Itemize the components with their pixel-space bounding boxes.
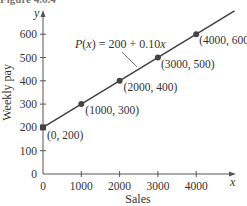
y-tick-label: 100 <box>20 145 38 157</box>
data-point <box>78 101 84 107</box>
y-tick-label: 200 <box>20 121 38 133</box>
data-point <box>40 124 46 130</box>
y-tick-label: 500 <box>20 52 38 64</box>
y-tick-label: 0 <box>31 168 37 180</box>
x-axis-var: x <box>229 175 236 189</box>
y-axis-title: Weekly pay <box>0 64 14 121</box>
x-tick-label: 1000 <box>70 180 93 192</box>
y-tick-label: 400 <box>20 75 38 87</box>
point-label: (2000, 400) <box>124 81 178 94</box>
point-label: (0, 200) <box>47 129 84 142</box>
y-axis-arrow-icon <box>41 10 46 17</box>
function-label: P(x) = 200 + 0.10x <box>74 37 166 51</box>
x-tick-label: 0 <box>40 180 46 192</box>
point-label: (1000, 300) <box>85 104 139 117</box>
y-tick-label: 600 <box>20 28 38 40</box>
x-tick-label: 2000 <box>108 180 131 192</box>
y-tick-label: 300 <box>20 98 38 110</box>
x-axis-title: Sales <box>125 192 151 206</box>
x-tick-label: 3000 <box>146 180 169 192</box>
leader-line <box>122 52 137 67</box>
y-axis-var: y <box>33 6 40 20</box>
x-tick-label: 4000 <box>185 180 208 192</box>
data-point <box>117 78 123 84</box>
point-label: (3000, 500) <box>161 58 215 71</box>
annotations: (0, 200)(1000, 300)(2000, 400)(3000, 500… <box>47 34 247 142</box>
line-chart: xySalesWeekly pay 0100020003000400001002… <box>0 0 247 206</box>
point-label: (4000, 600) <box>199 34 247 47</box>
